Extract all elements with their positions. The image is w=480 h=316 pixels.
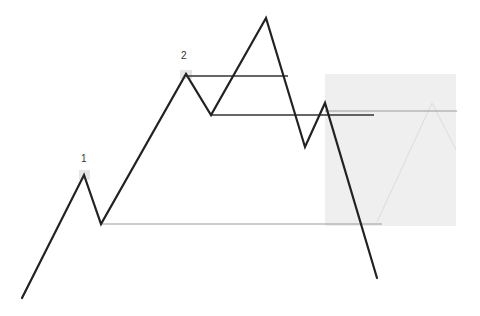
pattern-diagram bbox=[0, 0, 480, 316]
target-zone-box bbox=[325, 74, 456, 226]
peak-label-2: 2 bbox=[181, 50, 187, 61]
peak-label-1: 1 bbox=[81, 153, 87, 164]
price-path-line bbox=[22, 18, 377, 298]
